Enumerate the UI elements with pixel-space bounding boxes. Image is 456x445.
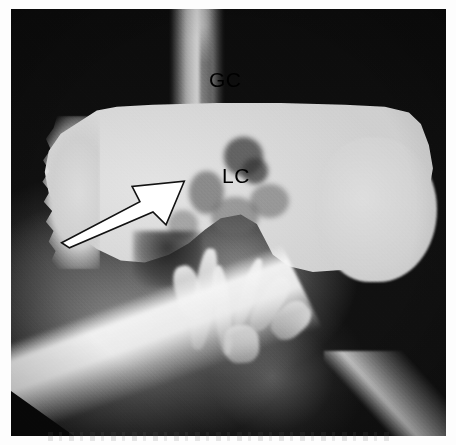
gastric-antrum-lobe xyxy=(316,137,438,282)
lesion-pointer-arrow xyxy=(59,171,190,248)
corner-contrast-band xyxy=(324,351,446,436)
annotation-label-lc: LC xyxy=(222,165,250,186)
radiograph-image: GC LC xyxy=(11,9,446,436)
radiograph-figure: GC LC xyxy=(0,0,456,445)
arrow-icon xyxy=(59,171,190,248)
annotation-label-gc: GC xyxy=(209,69,242,90)
